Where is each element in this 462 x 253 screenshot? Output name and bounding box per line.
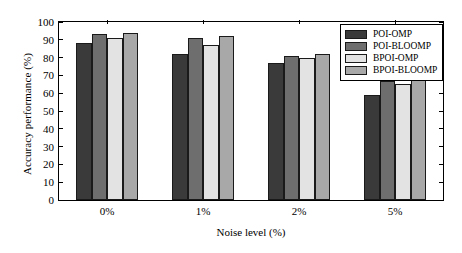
bar xyxy=(380,81,396,200)
y-tick-mark xyxy=(59,93,63,94)
y-tick-mark xyxy=(59,146,63,147)
chart-legend: POI-OMPPOI-BLOOMPBPOI-OMPBPOI-BLOOMP xyxy=(340,24,443,81)
legend-label: POI-BLOOMP xyxy=(373,41,431,52)
x-tick-label: 5% xyxy=(370,205,420,217)
bar xyxy=(411,77,427,200)
x-tick-label: 1% xyxy=(178,205,228,217)
bar xyxy=(188,38,204,200)
legend-label: POI-OMP xyxy=(373,29,412,40)
legend-swatch-icon xyxy=(345,54,367,63)
y-tick-mark xyxy=(59,22,63,23)
y-tick-label: 50 xyxy=(24,103,54,119)
legend-item: BPOI-BLOOMP xyxy=(345,65,437,76)
y-tick-mark-right xyxy=(439,200,443,201)
y-tick-label: 70 xyxy=(24,67,54,83)
y-tick-label: 100 xyxy=(24,14,54,30)
bar xyxy=(395,84,411,200)
legend-item: BPOI-OMP xyxy=(345,53,437,64)
y-tick-label: 10 xyxy=(24,174,54,190)
y-tick-label: 60 xyxy=(24,85,54,101)
bar xyxy=(123,33,139,200)
legend-item: POI-BLOOMP xyxy=(345,41,437,52)
y-tick-mark xyxy=(59,128,63,129)
bar xyxy=(364,95,380,200)
y-tick-mark xyxy=(59,57,63,58)
bar-chart: Accuracy performance (%) 010203040506070… xyxy=(0,0,462,253)
y-tick-label: 40 xyxy=(24,121,54,137)
y-tick-label: 0 xyxy=(24,192,54,208)
x-tick-mark-top xyxy=(107,20,108,24)
x-tick-label: 0% xyxy=(82,205,132,217)
bar xyxy=(284,56,300,200)
y-tick-mark-right xyxy=(439,93,443,94)
legend-label: BPOI-BLOOMP xyxy=(373,65,437,76)
legend-swatch-icon xyxy=(345,66,367,75)
bar xyxy=(315,54,331,200)
legend-swatch-icon xyxy=(345,30,367,39)
bar xyxy=(92,34,108,200)
y-tick-label: 30 xyxy=(24,139,54,155)
legend-swatch-icon xyxy=(345,42,367,51)
bar xyxy=(219,36,235,200)
x-tick-mark-top xyxy=(299,20,300,24)
bar xyxy=(172,54,188,200)
y-tick-label: 80 xyxy=(24,50,54,66)
y-tick-mark xyxy=(59,39,63,40)
y-tick-mark xyxy=(59,111,63,112)
bar xyxy=(299,58,315,200)
y-tick-mark-right xyxy=(439,164,443,165)
bar xyxy=(107,38,123,200)
x-tick-label: 2% xyxy=(274,205,324,217)
bar xyxy=(203,45,219,200)
y-tick-mark-right xyxy=(439,128,443,129)
y-tick-label: 20 xyxy=(24,156,54,172)
legend-label: BPOI-OMP xyxy=(373,53,418,64)
y-tick-label: 90 xyxy=(24,32,54,48)
x-axis-title: Noise level (%) xyxy=(58,226,444,238)
y-tick-mark xyxy=(59,75,63,76)
y-tick-mark-right xyxy=(439,146,443,147)
y-tick-mark xyxy=(59,182,63,183)
bar xyxy=(76,43,92,200)
y-tick-mark xyxy=(59,200,63,201)
x-tick-mark-top xyxy=(203,20,204,24)
y-tick-mark xyxy=(59,164,63,165)
bar xyxy=(268,63,284,200)
y-tick-mark-right xyxy=(439,182,443,183)
legend-item: POI-OMP xyxy=(345,29,437,40)
y-tick-mark-right xyxy=(439,111,443,112)
y-tick-mark-right xyxy=(439,22,443,23)
